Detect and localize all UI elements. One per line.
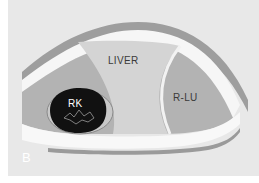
anatomy-illustration [8,0,259,176]
panel-label: B [22,150,31,165]
ultrasound-diagram: LIVER R-LU RK B [8,0,259,176]
label-right-kidney: RK [68,98,83,109]
kidney [50,88,106,133]
label-liver: LIVER [108,55,138,66]
label-right-lung: R-LU [173,92,198,103]
